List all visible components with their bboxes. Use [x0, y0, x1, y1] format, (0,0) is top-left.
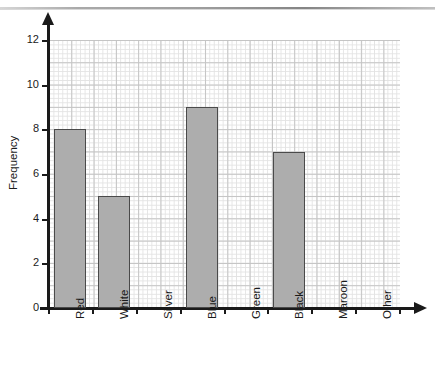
x-tick-4 — [224, 307, 226, 314]
x-tick-label-maroon: Maroon — [338, 280, 350, 319]
y-tick-label-0: 0 — [15, 302, 39, 313]
y-axis-line — [47, 22, 50, 310]
x-tick-label-silver: Silver — [163, 290, 175, 319]
x-tick-0 — [48, 307, 50, 314]
x-tick-label-other: Other — [382, 290, 394, 319]
x-tick-8 — [399, 307, 401, 314]
y-tick-label-12: 12 — [15, 34, 39, 45]
y-tick-2 — [42, 263, 49, 265]
y-tick-4 — [42, 219, 49, 221]
scan-artifact-line-secondary — [0, 9, 435, 10]
y-tick-label-6: 6 — [15, 168, 39, 179]
y-axis-title: Frequency — [8, 136, 20, 190]
y-tick-10 — [42, 85, 49, 87]
x-tick-1 — [92, 307, 94, 314]
x-axis-arrow-icon — [414, 302, 427, 314]
x-tick-2 — [136, 307, 138, 314]
y-tick-label-4: 4 — [15, 213, 39, 224]
x-tick-7 — [355, 307, 357, 314]
y-tick-8 — [42, 129, 49, 131]
x-tick-label-white: White — [119, 290, 131, 319]
bar-chart: Frequency 12 10 8 6 4 2 0 Red White Silv… — [0, 0, 435, 374]
y-tick-label-2: 2 — [15, 257, 39, 268]
y-tick-label-8: 8 — [15, 123, 39, 134]
y-axis-arrow-icon — [42, 12, 54, 25]
y-tick-6 — [42, 174, 49, 176]
x-tick-6 — [311, 307, 313, 314]
x-tick-label-red: Red — [75, 298, 87, 319]
x-tick-5 — [267, 307, 269, 314]
x-tick-label-blue: Blue — [207, 296, 219, 319]
x-axis-line — [40, 307, 418, 310]
x-tick-label-black: Black — [294, 291, 306, 319]
y-tick-label-10: 10 — [15, 79, 39, 90]
x-tick-3 — [180, 307, 182, 314]
bar-black — [273, 152, 305, 308]
x-tick-label-green: Green — [251, 287, 263, 319]
y-tick-12 — [42, 40, 49, 42]
bar-red — [54, 129, 86, 308]
bar-blue — [186, 107, 218, 308]
